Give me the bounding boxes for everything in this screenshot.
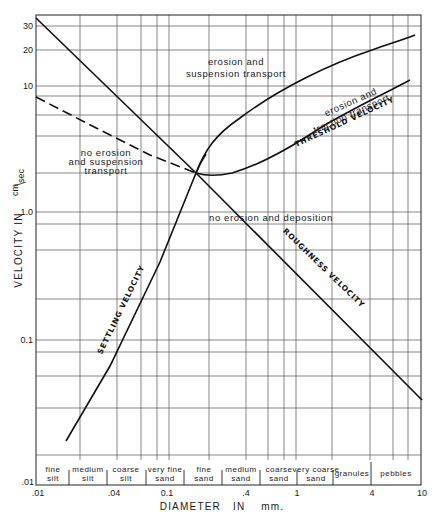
grain-medium-sand-1: medium [225,465,256,474]
svg-text:30: 30 [23,21,33,31]
grain-very-fine-sand-2: sand [155,474,174,483]
svg-text:sec: sec [16,168,26,183]
label-roughness-velocity: ROUGHNESS VELOCITY [281,227,367,310]
grain-coarse-silt-2: silt [120,474,132,483]
velocity-diameter-chart: erosion and suspension transport erosion… [0,0,436,516]
grain-very-fine-sand-1: very fine [148,465,183,474]
label-no-erosion-suspension-line3: transport [85,165,128,176]
svg-text:.01: .01 [32,488,45,498]
x-axis-ticks: .01 .04 0.1 .4 1 4 10 [32,488,427,498]
x-axis-title: DIAMETER IN mm. [160,501,285,512]
grain-fine-silt-2: silt [47,474,59,483]
label-erosion-suspension-line1: erosion and [208,56,264,67]
grain-fine-silt-1: fine [46,465,61,474]
y-axis-title: VELOCITY IN cm sec [10,168,26,287]
svg-text:10: 10 [417,488,427,498]
settling-velocity-curve [66,154,206,441]
svg-text:20: 20 [23,45,33,55]
grain-coarse-sand-1: coarse [265,465,292,474]
grain-medium-silt-2: silt [82,474,94,483]
svg-text:1: 1 [294,488,299,498]
grain-class-labels: fine silt medium silt coarse silt very f… [46,465,412,483]
grain-fine-sand-1: fine [197,465,212,474]
svg-text:4: 4 [369,488,374,498]
grain-granules: granules [335,469,370,478]
grain-coarse-sand-2: sand [269,474,288,483]
grain-pebbles: pebbles [380,469,412,478]
svg-text:.4: .4 [242,488,250,498]
svg-text:VELOCITY IN: VELOCITY IN [13,212,24,287]
grain-medium-sand-2: sand [231,474,250,483]
grain-fine-sand-2: sand [194,474,213,483]
svg-text:0.1: 0.1 [161,488,174,498]
svg-text:0.1: 0.1 [20,335,33,345]
svg-text:.01: .01 [21,477,34,487]
grain-medium-silt-1: medium [72,465,103,474]
grain-very-coarse-sand-1: very coarse [293,465,340,474]
grain-coarse-silt-1: coarse [112,465,139,474]
svg-text:10: 10 [23,81,33,91]
svg-text:.04: .04 [108,488,121,498]
vertical-gridlines [80,15,408,460]
label-erosion-suspension-line2: suspension transport [186,68,286,79]
svg-text:ROUGHNESS VELOCITY: ROUGHNESS VELOCITY [281,227,367,310]
label-no-erosion-deposition: no erosion and deposition [209,212,333,223]
grain-very-coarse-sand-2: sand [306,474,325,483]
